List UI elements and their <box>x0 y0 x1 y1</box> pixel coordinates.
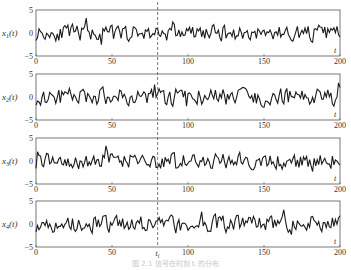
x-tick-label: 150 <box>258 185 270 194</box>
x-tick-label: 0 <box>34 57 38 66</box>
y-tick-label: 5 <box>29 197 33 206</box>
t-axis-label: t <box>334 237 337 246</box>
x-tick-label: 50 <box>108 121 116 130</box>
x-tick-label: 100 <box>182 57 194 66</box>
t-axis-label: t <box>334 46 337 55</box>
x-tick-label: 0 <box>34 248 38 257</box>
x-tick-label: 150 <box>258 57 270 66</box>
x-tick-label: 150 <box>258 248 270 257</box>
x-tick-label: 100 <box>182 121 194 130</box>
x-tick-label: 0 <box>34 121 38 130</box>
signal-line-1 <box>36 18 340 44</box>
y-tick-label: 0 <box>29 93 33 102</box>
y-axis-label: x3(t) <box>1 156 18 167</box>
y-tick-label: 5 <box>29 6 33 15</box>
y-tick-label: −5 <box>24 52 33 61</box>
x-tick-label: 200 <box>334 121 346 130</box>
y-tick-label: 0 <box>29 157 33 166</box>
y-axis-label: x1(t) <box>1 28 18 39</box>
x-tick-label: 0 <box>34 185 38 194</box>
y-tick-label: 5 <box>29 70 33 79</box>
signal-line-2 <box>36 83 340 108</box>
x-tick-label: 200 <box>334 57 346 66</box>
x-tick-label: 200 <box>334 248 346 257</box>
y-tick-label: 0 <box>29 220 33 229</box>
x-tick-label: 100 <box>182 248 194 257</box>
signal-line-3 <box>36 146 340 172</box>
signal-line-4 <box>36 210 340 235</box>
y-tick-label: −5 <box>24 243 33 252</box>
figure-caption: 图 2.1 信号在时刻 tᵢ 的分布 <box>0 258 351 268</box>
y-tick-label: −5 <box>24 116 33 125</box>
t-axis-label: t <box>334 110 337 119</box>
y-axis-label: x4(t) <box>1 219 18 230</box>
x-tick-label: 50 <box>108 185 116 194</box>
figure: 05010015020050−5x1(t)t05010015020050−5x2… <box>0 0 351 270</box>
y-tick-label: 5 <box>29 134 33 143</box>
t-axis-label: t <box>334 174 337 183</box>
x-tick-label: 200 <box>334 185 346 194</box>
y-axis-label: x2(t) <box>1 92 18 103</box>
x-tick-label: 50 <box>108 248 116 257</box>
x-tick-label: 150 <box>258 121 270 130</box>
y-tick-label: −5 <box>24 180 33 189</box>
y-tick-label: 0 <box>29 29 33 38</box>
panel-frame <box>36 201 340 247</box>
panel-frame <box>36 10 340 56</box>
x-tick-label: 50 <box>108 57 116 66</box>
x-tick-label: 100 <box>182 185 194 194</box>
